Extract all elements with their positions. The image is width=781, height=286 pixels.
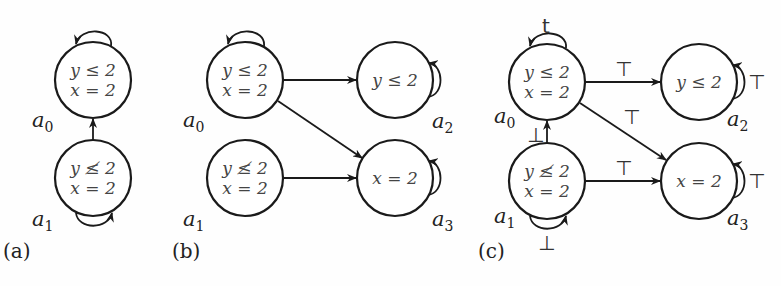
state-a1-formula-1: y ≰ 2 xyxy=(221,158,267,178)
self-loop-a3-label: ⊤ xyxy=(748,169,765,193)
state-a0-formula-1: y ≤ 2 xyxy=(523,62,569,82)
panel-b: y ≤ 2 x = 2 a0 y ≰ 2 x = 2 a1 y ≤ 2 a2 x… xyxy=(172,31,453,263)
state-a0-label: a0 xyxy=(183,108,204,135)
self-loop-a2-label: ⊤ xyxy=(748,70,765,94)
state-a1-label: a1 xyxy=(494,204,515,231)
state-a1-formula-2: x = 2 xyxy=(70,178,115,198)
edge-a1-to-a3-label: ⊤ xyxy=(615,156,632,180)
state-a0-label: a0 xyxy=(494,104,515,131)
state-a1-label: a1 xyxy=(32,207,53,234)
panel-c-label: (c) xyxy=(478,239,505,263)
edge-a0-to-a2-label: ⊤ xyxy=(615,57,632,81)
state-a0-formula-2: x = 2 xyxy=(222,80,267,100)
state-a3-formula: x = 2 xyxy=(372,168,417,188)
state-a0-formula-1: y ≤ 2 xyxy=(221,60,267,80)
state-a3-formula: x = 2 xyxy=(676,171,721,191)
state-a0-formula-1: y ≤ 2 xyxy=(69,60,115,80)
self-loop-a1-label: ⊥ xyxy=(538,231,555,255)
state-a2-label: a2 xyxy=(432,109,453,136)
state-a1-label: a1 xyxy=(183,207,204,234)
state-a2-label: a2 xyxy=(727,107,748,134)
edge-a0-to-a3-label: ⊤ xyxy=(623,105,640,129)
state-a1-formula-2: x = 2 xyxy=(222,178,267,198)
state-a1-formula-2: x = 2 xyxy=(524,181,569,201)
state-a0-formula-2: x = 2 xyxy=(70,80,115,100)
state-a0-formula-2: x = 2 xyxy=(524,82,569,102)
panel-b-label: (b) xyxy=(172,239,200,263)
self-loop-a0-label: t xyxy=(542,14,550,38)
state-a1-formula-1: y ≰ 2 xyxy=(69,158,115,178)
state-a0-label: a0 xyxy=(32,108,53,135)
edge-a0-to-a3 xyxy=(278,101,362,158)
figure-canvas: y ≤ 2 x = 2 a0 y ≰ 2 x = 2 a1 (a) y ≤ 2 … xyxy=(0,0,781,286)
state-a1-formula-1: y ≰ 2 xyxy=(523,161,569,181)
state-a2-formula: y ≤ 2 xyxy=(371,70,417,90)
panel-c: ⊥ ⊤ ⊤ ⊤ t y ≤ 2 x = 2 a0 ⊥ y ≰ 2 x = 2 a… xyxy=(478,14,765,263)
state-a3-label: a3 xyxy=(727,206,748,233)
state-a2-formula: y ≤ 2 xyxy=(675,72,721,92)
panel-a: y ≤ 2 x = 2 a0 y ≰ 2 x = 2 a1 (a) xyxy=(3,31,131,263)
state-a3-label: a3 xyxy=(432,207,453,234)
panel-a-label: (a) xyxy=(3,239,31,263)
